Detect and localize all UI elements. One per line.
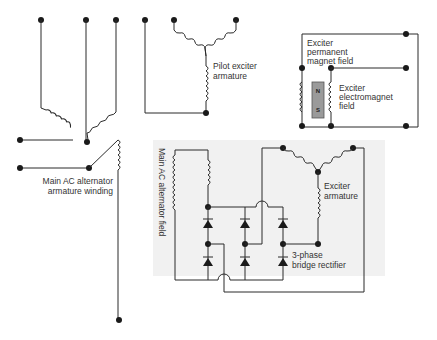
- exciter-armature-label-2: armature: [324, 191, 358, 201]
- em-field-label-3: field: [339, 101, 355, 111]
- rectifier-label-2: bridge rectifier: [292, 260, 346, 270]
- main-ac-winding-label-2: armature winding: [48, 186, 113, 196]
- exciter-armature-label-1: Exciter: [324, 181, 350, 191]
- circuit-diagram: Main AC alternator armature winding Pilo…: [0, 0, 437, 340]
- pilot-exciter-label-1: Pilot exciter: [213, 61, 257, 71]
- main-ac-winding-label-1: Main AC alternator: [43, 176, 114, 186]
- pm-field-label-3: magnet field: [307, 56, 354, 66]
- magnet-north-label: N: [316, 88, 320, 94]
- pilot-exciter-label-2: armature: [213, 71, 247, 81]
- main-ac-armature-winding: [17, 17, 122, 323]
- main-ac-field-label: Main AC alternator field: [157, 148, 167, 237]
- rotating-assembly-panel: [153, 140, 385, 276]
- rectifier-label-1: 3-phase: [292, 250, 323, 260]
- magnet-south-label: S: [316, 107, 320, 113]
